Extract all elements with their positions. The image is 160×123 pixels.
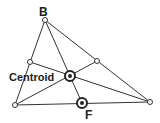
midpoint-right-dot [95,59,100,64]
point-f-marker [77,98,87,108]
centroid-label: Centroid [9,71,54,83]
midpoint-left-dot [28,60,33,65]
vertex-left-dot [13,103,18,108]
vertex-right-dot [148,100,153,105]
centroid-marker [65,71,75,81]
vertex-b-label: B [39,5,48,19]
median-b-f [45,20,82,103]
triangle-diagram: B Centroid F [0,0,160,123]
point-f-label: F [85,108,92,122]
